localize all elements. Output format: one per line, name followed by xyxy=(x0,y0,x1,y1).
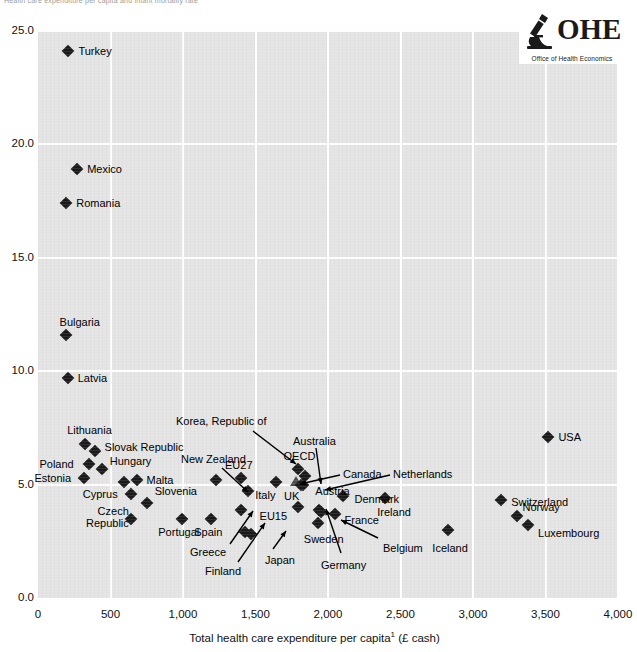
data-point-label: OECD xyxy=(284,450,316,462)
data-point-label: EU15 xyxy=(260,510,288,522)
data-point-marker[interactable] xyxy=(242,485,255,498)
data-point-label: Australia xyxy=(293,435,336,447)
x-tick-label: 1,000 xyxy=(153,608,213,620)
data-point-marker[interactable] xyxy=(235,503,248,516)
data-point-label: USA xyxy=(558,431,581,443)
data-point-marker[interactable] xyxy=(61,372,74,385)
data-point-label: Portugal xyxy=(158,526,199,538)
data-point-label: Turkey xyxy=(78,45,111,57)
data-point-label: Czech Republic xyxy=(71,505,129,529)
data-point-label: Spain xyxy=(194,526,222,538)
y-gridline xyxy=(38,143,618,145)
data-point-label: Greece xyxy=(190,546,226,558)
figure-top-title: Health care expenditure per capita and i… xyxy=(4,0,198,5)
data-point-marker[interactable] xyxy=(62,45,75,58)
data-point-label: Denmark xyxy=(355,493,400,505)
y-gridline xyxy=(38,370,618,372)
data-point-label: Luxembourg xyxy=(538,527,599,539)
data-point-marker[interactable] xyxy=(124,487,137,500)
data-point-marker[interactable] xyxy=(140,496,153,509)
data-point-label: Canada xyxy=(343,468,382,480)
data-point-label: Korea, Republic of xyxy=(176,415,267,427)
data-point-label: Iceland xyxy=(432,542,467,554)
data-point-marker[interactable] xyxy=(71,163,84,176)
x-tick-label: 3,000 xyxy=(443,608,503,620)
data-point-label: Belgium xyxy=(383,542,423,554)
data-point-label: Italy xyxy=(255,489,275,501)
x-tick-label: 1,500 xyxy=(226,608,286,620)
x-gridline xyxy=(472,31,474,598)
data-point-label: Sweden xyxy=(304,533,344,545)
x-tick-label: 2,500 xyxy=(371,608,431,620)
data-point-label: UK xyxy=(284,490,299,502)
data-point-marker[interactable] xyxy=(522,519,535,532)
ohe-wordmark: OHE xyxy=(557,14,621,44)
data-point-label: Latvia xyxy=(78,372,107,384)
x-tick-label: 3,500 xyxy=(516,608,576,620)
data-point-label: EU27 xyxy=(225,459,253,471)
x-axis-title: Total health care expenditure per capita… xyxy=(0,630,629,644)
x-tick-label: 2,000 xyxy=(298,608,358,620)
data-point-marker[interactable] xyxy=(83,458,96,471)
data-point-label: Finland xyxy=(205,565,241,577)
data-point-marker[interactable] xyxy=(176,512,189,525)
data-point-marker[interactable] xyxy=(311,517,324,530)
x-tick-label: 500 xyxy=(81,608,141,620)
data-point-label: Netherlands xyxy=(393,468,452,480)
data-point-marker[interactable] xyxy=(117,476,130,489)
data-point-label: Hungary xyxy=(110,455,152,467)
x-tick-label: 0 xyxy=(8,608,68,620)
x-tick-label: 4,000 xyxy=(588,608,637,620)
ohe-logo: OHE Office of Health Economics xyxy=(519,10,623,64)
data-point-marker[interactable] xyxy=(235,471,248,484)
data-point-label: Ireland xyxy=(377,506,411,518)
data-point-marker[interactable] xyxy=(269,476,282,489)
data-point-label: Estonia xyxy=(34,472,71,484)
x-gridline xyxy=(255,31,257,598)
data-point-label: Poland xyxy=(39,458,73,470)
data-point-label: France xyxy=(345,514,379,526)
ohe-subtitle: Office of Health Economics xyxy=(521,55,623,62)
data-point-label: Norway xyxy=(523,501,560,513)
x-axis-title-text: Total health care expenditure per capita xyxy=(189,632,390,644)
data-point-marker[interactable] xyxy=(60,197,73,210)
data-point-label: Austria xyxy=(315,485,349,497)
data-point-label: Cyprus xyxy=(83,488,118,500)
y-tick-label: 20.0 xyxy=(0,137,34,149)
y-tick-label: 5.0 xyxy=(0,478,34,490)
x-gridline xyxy=(617,31,618,598)
data-point-label: Slovak Republic xyxy=(105,441,184,453)
data-point-marker[interactable] xyxy=(205,512,218,525)
data-point-label: Germany xyxy=(321,559,366,571)
y-gridline xyxy=(38,257,618,259)
data-point-marker[interactable] xyxy=(59,329,72,342)
x-axis-title-units: (£ cash) xyxy=(395,632,440,644)
data-point-label: Japan xyxy=(265,554,295,566)
data-point-label: Bulgaria xyxy=(60,316,100,328)
y-tick-label: 15.0 xyxy=(0,251,34,263)
data-point-marker[interactable] xyxy=(495,494,508,507)
data-point-marker[interactable] xyxy=(510,510,523,523)
data-point-marker[interactable] xyxy=(291,501,304,514)
y-tick-label: 10.0 xyxy=(0,364,34,376)
data-point-marker[interactable] xyxy=(328,508,341,521)
data-point-label: Romania xyxy=(76,197,120,209)
data-point-label: Mexico xyxy=(87,163,122,175)
data-point-marker[interactable] xyxy=(88,444,101,457)
data-point-marker[interactable] xyxy=(442,524,455,537)
y-tick-label: 0.0 xyxy=(0,591,34,603)
data-point-label: Slovenia xyxy=(155,485,197,497)
data-point-marker[interactable] xyxy=(95,462,108,475)
microscope-icon xyxy=(521,11,561,51)
data-point-label: Lithuania xyxy=(67,424,112,436)
y-tick-label: 25.0 xyxy=(0,24,34,36)
data-point-marker[interactable] xyxy=(78,471,91,484)
